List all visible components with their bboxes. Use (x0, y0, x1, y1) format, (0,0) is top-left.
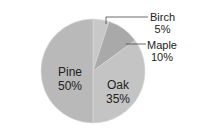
maple-label: Maple 10% (147, 39, 177, 63)
maple-pct: 10% (147, 51, 177, 63)
pine-pct: 50% (58, 79, 82, 93)
oak-name: Oak (106, 78, 130, 92)
birch-pct: 5% (150, 23, 175, 35)
maple-name: Maple (147, 39, 177, 51)
oak-label: Oak 35% (106, 78, 130, 106)
pine-label: Pine 50% (58, 65, 82, 93)
pine-name: Pine (58, 65, 82, 79)
oak-pct: 35% (106, 92, 130, 106)
birch-label: Birch 5% (150, 11, 175, 35)
birch-name: Birch (150, 11, 175, 23)
